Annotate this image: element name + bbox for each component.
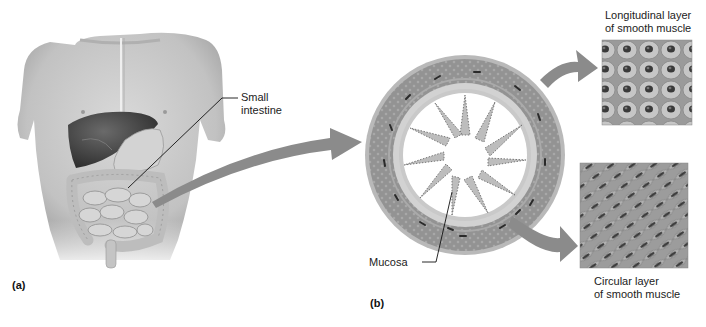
intestine-cross-section (365, 55, 565, 255)
label-line-2: intestine (241, 104, 282, 117)
panel-label-a: (a) (12, 279, 25, 291)
label-line-1: Longitudinal layer (605, 9, 691, 22)
longitudinal-muscle-micrograph (602, 40, 692, 125)
arrow-to-longitudinal (540, 50, 598, 88)
label-line-1: Small (241, 91, 282, 104)
label-line-2: of smooth muscle (605, 22, 691, 35)
panel-label-b: (b) (370, 297, 384, 309)
label-small-intestine: Small intestine (241, 91, 282, 117)
label-longitudinal-layer: Longitudinal layer of smooth muscle (605, 9, 691, 35)
label-mucosa: Mucosa (369, 256, 408, 269)
label-line-1: Circular layer (594, 275, 680, 288)
circular-muscle-micrograph (580, 163, 688, 268)
label-line-2: of smooth muscle (594, 288, 680, 301)
label-circular-layer: Circular layer of smooth muscle (594, 275, 680, 301)
